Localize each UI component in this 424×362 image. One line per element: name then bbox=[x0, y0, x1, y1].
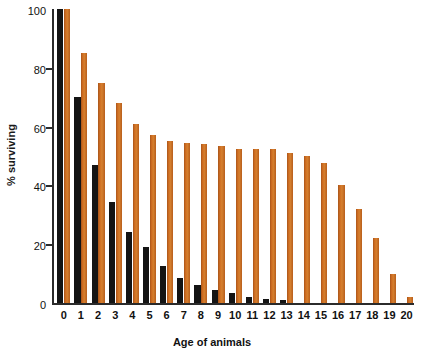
bar-black bbox=[160, 266, 166, 303]
x-tick-label: 18 bbox=[366, 309, 378, 322]
x-tick-label: 17 bbox=[349, 309, 361, 322]
x-tick-label: 12 bbox=[263, 309, 275, 322]
bar-group bbox=[314, 9, 327, 303]
y-tick-mark bbox=[46, 68, 53, 70]
bar-black bbox=[263, 299, 269, 303]
bar-orange bbox=[116, 103, 122, 303]
bar-black bbox=[246, 297, 252, 303]
bar-black bbox=[92, 165, 98, 303]
bar-group bbox=[400, 9, 413, 303]
bar-group bbox=[297, 9, 310, 303]
bar-container bbox=[54, 9, 414, 303]
x-tick-label: 2 bbox=[95, 309, 101, 322]
bar-black bbox=[57, 9, 63, 303]
bar-group bbox=[57, 9, 70, 303]
bar-orange bbox=[390, 274, 396, 303]
x-tick-label: 19 bbox=[383, 309, 395, 322]
bar-orange bbox=[321, 163, 327, 303]
y-tick-label: 0 bbox=[40, 300, 46, 311]
x-tick-label: 8 bbox=[198, 309, 204, 322]
survival-bar-chart: % surviving 020406080100 012345678910111… bbox=[0, 0, 424, 362]
bar-black bbox=[74, 97, 80, 303]
bar-black bbox=[280, 300, 286, 303]
y-tick-mark bbox=[46, 127, 53, 129]
x-tick-label: 20 bbox=[401, 309, 413, 322]
y-axis-title: % surviving bbox=[0, 0, 22, 310]
bar-black bbox=[229, 293, 235, 303]
x-tick-label: 4 bbox=[129, 309, 135, 322]
y-tick-label: 100 bbox=[28, 6, 46, 17]
bar-orange bbox=[150, 135, 156, 303]
bar-group bbox=[229, 9, 242, 303]
bar-group bbox=[383, 9, 396, 303]
bar-orange bbox=[201, 144, 207, 303]
bar-orange bbox=[236, 149, 242, 303]
y-tick-label: 20 bbox=[34, 241, 46, 252]
y-axis-title-text: % surviving bbox=[5, 124, 17, 186]
bar-group bbox=[366, 9, 379, 303]
x-axis-tick-labels: 01234567891011121314151617181920 bbox=[52, 309, 414, 325]
bar-group bbox=[280, 9, 293, 303]
bar-orange bbox=[218, 146, 224, 303]
y-tick-label: 60 bbox=[34, 123, 46, 134]
bar-orange bbox=[253, 149, 259, 303]
bar-group bbox=[109, 9, 122, 303]
bar-group bbox=[194, 9, 207, 303]
bar-orange bbox=[356, 209, 362, 303]
x-tick-label: 1 bbox=[78, 309, 84, 322]
bar-group bbox=[126, 9, 139, 303]
x-tick-label: 7 bbox=[181, 309, 187, 322]
bar-black bbox=[194, 285, 200, 303]
bar-group bbox=[332, 9, 345, 303]
bar-orange bbox=[167, 141, 173, 303]
y-tick-label: 40 bbox=[34, 182, 46, 193]
x-tick-label: 16 bbox=[332, 309, 344, 322]
bar-orange bbox=[184, 143, 190, 303]
bar-orange bbox=[304, 156, 310, 303]
bar-group bbox=[212, 9, 225, 303]
y-axis-tick-labels: 020406080100 bbox=[20, 0, 50, 310]
x-tick-label: 5 bbox=[146, 309, 152, 322]
bar-black bbox=[109, 202, 115, 303]
x-tick-label: 10 bbox=[229, 309, 241, 322]
y-tick-label: 80 bbox=[34, 64, 46, 75]
x-tick-label: 13 bbox=[281, 309, 293, 322]
bar-black bbox=[212, 290, 218, 303]
plot-area bbox=[52, 9, 414, 305]
bar-orange bbox=[98, 83, 104, 304]
bar-group bbox=[160, 9, 173, 303]
x-tick-label: 3 bbox=[112, 309, 118, 322]
bar-group bbox=[74, 9, 87, 303]
x-axis-line bbox=[52, 303, 414, 305]
bar-orange bbox=[133, 124, 139, 303]
bar-group bbox=[177, 9, 190, 303]
bar-group bbox=[143, 9, 156, 303]
bar-orange bbox=[287, 153, 293, 303]
x-tick-label: 6 bbox=[164, 309, 170, 322]
bar-orange bbox=[407, 297, 413, 303]
bar-group bbox=[92, 9, 105, 303]
bar-orange bbox=[270, 149, 276, 303]
bar-group bbox=[246, 9, 259, 303]
bar-orange bbox=[373, 238, 379, 303]
x-axis-title: Age of animals bbox=[0, 336, 424, 348]
bar-orange bbox=[81, 53, 87, 303]
bar-black bbox=[177, 278, 183, 303]
bar-black bbox=[126, 232, 132, 303]
y-tick-mark bbox=[46, 185, 53, 187]
bar-orange bbox=[338, 185, 344, 303]
x-tick-label: 15 bbox=[315, 309, 327, 322]
bar-group bbox=[349, 9, 362, 303]
x-tick-label: 0 bbox=[61, 309, 67, 322]
bar-group bbox=[263, 9, 276, 303]
x-tick-label: 9 bbox=[215, 309, 221, 322]
x-tick-label: 14 bbox=[298, 309, 310, 322]
x-tick-label: 11 bbox=[247, 309, 259, 322]
bar-orange bbox=[64, 9, 70, 303]
bar-black bbox=[143, 247, 149, 303]
y-tick-mark bbox=[46, 244, 53, 246]
